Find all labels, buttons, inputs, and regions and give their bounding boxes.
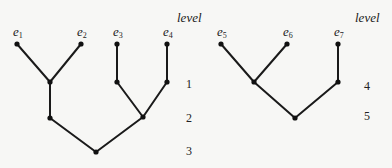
leaf-label-subscript: 6 [289, 31, 293, 40]
level-number: 1 [186, 77, 192, 91]
leaf-label-subscript: 2 [83, 31, 87, 40]
level-header: level [355, 10, 380, 25]
leaf-label-subscript: 5 [223, 31, 227, 40]
edge-e5-n56 [221, 44, 254, 82]
labels-layer: e1e2e3e4level123e5e6e7level45 [13, 10, 380, 158]
level-number: 2 [186, 111, 192, 125]
leaf-node-e5 [218, 41, 223, 46]
edge-n56-root-right [254, 82, 295, 118]
edge-e1-n12 [17, 44, 50, 82]
edges-layer [17, 44, 338, 152]
internal-node-n56 [251, 79, 256, 84]
internal-node-m34 [140, 114, 145, 119]
leaf-node-e1 [14, 41, 19, 46]
edge-m12-root-left [50, 118, 96, 152]
leaf-label-e4: e4 [163, 24, 173, 40]
level-header: level [177, 10, 202, 25]
internal-node-n3 [114, 79, 119, 84]
leaf-node-e3 [114, 41, 119, 46]
leaf-node-e4 [164, 41, 169, 46]
leaf-label-e2: e2 [77, 24, 87, 40]
nodes-layer [14, 41, 340, 154]
internal-node-root-right [292, 115, 297, 120]
leaf-node-e2 [78, 41, 83, 46]
edge-e6-n56 [254, 44, 287, 82]
leaf-label-subscript: 4 [169, 31, 173, 40]
internal-node-n7 [335, 79, 340, 84]
level-number: 3 [186, 144, 192, 158]
leaf-label-e3: e3 [113, 24, 123, 40]
internal-node-n12 [47, 79, 52, 84]
leaf-label-subscript: 1 [19, 31, 23, 40]
leaf-label-e6: e6 [283, 24, 293, 40]
internal-node-n4 [164, 79, 169, 84]
leaf-node-e6 [284, 41, 289, 46]
leaf-node-e7 [335, 41, 340, 46]
edge-e2-n12 [50, 44, 81, 82]
leaf-label-e7: e7 [334, 24, 344, 40]
leaf-label-e1: e1 [13, 24, 23, 40]
leaf-label-subscript: 3 [119, 31, 123, 40]
edge-m34-root-left [96, 117, 143, 152]
internal-node-m12 [47, 115, 52, 120]
leaf-label-e5: e5 [217, 24, 227, 40]
edge-n7-root-right [295, 82, 338, 118]
level-number: 5 [364, 109, 370, 123]
internal-node-root-left [93, 149, 98, 154]
level-number: 4 [364, 79, 370, 93]
edge-n4-m34 [143, 82, 167, 117]
merge-tree-diagram: e1e2e3e4level123e5e6e7level45 [0, 0, 392, 168]
leaf-label-subscript: 7 [340, 31, 344, 40]
edge-n3-m34 [117, 82, 143, 117]
